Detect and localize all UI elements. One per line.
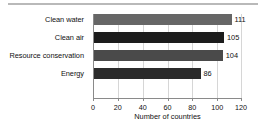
xtick-100	[217, 98, 218, 101]
xtick-label-100: 100	[211, 103, 223, 112]
xtick-80	[192, 98, 193, 101]
value-label-resource-conservation: 104	[226, 50, 238, 61]
bar-resource-conservation[interactable]	[94, 50, 223, 61]
xtick-40	[143, 98, 144, 101]
x-axis-title: Number of countries	[93, 112, 242, 122]
category-label-energy: Energy	[61, 68, 84, 79]
xtick-label-0: 0	[91, 103, 95, 112]
value-label-clean-water: 111	[235, 14, 246, 25]
xtick-label-120: 120	[235, 103, 247, 112]
plot-area: 111 105 104 86 0 20 40 60 80 100 120	[93, 14, 242, 98]
category-label-resource-conservation: Resource conservation	[9, 50, 84, 61]
value-label-energy: 86	[203, 68, 211, 79]
xtick-label-40: 40	[139, 103, 147, 112]
xtick-label-80: 80	[188, 103, 196, 112]
top-divider-rule	[8, 3, 258, 5]
bar-clean-air[interactable]	[94, 32, 224, 43]
category-axis-labels: Clean water Clean air Resource conservat…	[0, 14, 88, 94]
bar-clean-water[interactable]	[94, 14, 232, 25]
xtick-label-20: 20	[114, 103, 122, 112]
gridline-120	[241, 14, 242, 98]
category-label-clean-air: Clean air	[55, 32, 84, 43]
xtick-60	[168, 98, 169, 101]
category-label-clean-water: Clean water	[45, 14, 84, 25]
value-label-clean-air: 105	[227, 32, 239, 43]
xtick-0	[93, 98, 94, 101]
xtick-120	[241, 98, 242, 101]
bar-chart-figure: Clean water Clean air Resource conservat…	[0, 0, 268, 135]
xtick-20	[118, 98, 119, 101]
xtick-label-60: 60	[164, 103, 172, 112]
bar-energy[interactable]	[94, 68, 201, 79]
